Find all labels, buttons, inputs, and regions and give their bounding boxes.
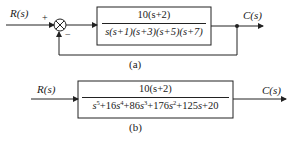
transfer-function-a: 10(s+2) s(s+1)(s+3)(s+5)(s+7) [97, 9, 211, 38]
denominator-b: s5+16s4+86s3+176s2+125s+20 [92, 98, 218, 112]
input-label-a: R(s) [10, 8, 28, 19]
caption-a: (a) [129, 59, 141, 70]
input-label-b: R(s) [37, 84, 55, 95]
minus-sign: − [65, 30, 71, 40]
output-label-a: C(s) [243, 10, 262, 21]
denominator-term: +125s [176, 100, 202, 111]
denominator-term: +176s2 [147, 100, 176, 111]
denominator-term: +86s3 [124, 100, 148, 111]
denominator-a: s(s+1)(s+3)(s+5)(s+7) [105, 24, 203, 38]
output-label-b: C(s) [262, 85, 281, 96]
numerator-a: 10(s+2) [138, 9, 171, 23]
denominator-term: +16s4 [100, 100, 124, 111]
denominator-term: s5 [92, 100, 99, 111]
denominator-term: +20 [202, 100, 218, 111]
numerator-b: 10(s+2) [139, 83, 172, 97]
plus-sign: + [42, 13, 48, 23]
transfer-function-b: 10(s+2) s5+16s4+86s3+176s2+125s+20 [78, 83, 233, 112]
caption-b: (b) [129, 122, 142, 133]
